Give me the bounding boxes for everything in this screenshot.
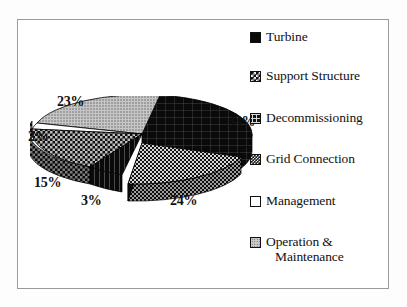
- chart-legend: Turbine Support Structure Decommissionin…: [250, 8, 390, 260]
- legend-label-operation-maintenance-line2: Maintenance: [266, 249, 344, 264]
- legend-label-decommissioning: Decommissioning: [266, 110, 363, 125]
- pie-chart: 23% 33% 2% 15% 3% 24%: [30, 96, 255, 206]
- legend-label-operation-maintenance: Operation & Maintenance: [266, 234, 344, 264]
- data-label-support-structure: 15%: [34, 175, 61, 191]
- legend-item-support-structure[interactable]: Support Structure: [250, 68, 360, 83]
- solid-black-swatch-icon: [250, 32, 261, 43]
- legend-label-management: Management: [266, 193, 335, 208]
- coarse-checkerboard-swatch-icon: [250, 71, 261, 82]
- light-stipple-swatch-icon: [250, 237, 261, 248]
- fine-checkerboard-swatch-icon: [250, 154, 261, 165]
- legend-label-grid-connection: Grid Connection: [266, 151, 355, 166]
- legend-label-operation-maintenance-line1: Operation &: [266, 234, 333, 249]
- legend-label-support-structure: Support Structure: [266, 68, 360, 83]
- pie-svg: [30, 96, 255, 206]
- legend-item-operation-maintenance[interactable]: Operation & Maintenance: [250, 234, 344, 264]
- legend-item-grid-connection[interactable]: Grid Connection: [250, 151, 355, 166]
- data-label-decommissioning: 3%: [81, 193, 102, 209]
- data-label-grid-connection: 24%: [170, 193, 197, 209]
- chart-screenshot: 23% 33% 2% 15% 3% 24% Turbine Support St…: [0, 0, 407, 307]
- legend-item-turbine[interactable]: Turbine: [250, 29, 308, 44]
- legend-label-turbine: Turbine: [266, 29, 308, 44]
- data-label-management: 2%: [28, 129, 49, 145]
- legend-item-decommissioning[interactable]: Decommissioning: [250, 110, 363, 125]
- dark-blocks-swatch-icon: [250, 113, 261, 124]
- legend-item-management[interactable]: Management: [250, 193, 335, 208]
- empty-white-swatch-icon: [250, 196, 261, 207]
- data-label-operation-maintenance: 23%: [57, 94, 84, 110]
